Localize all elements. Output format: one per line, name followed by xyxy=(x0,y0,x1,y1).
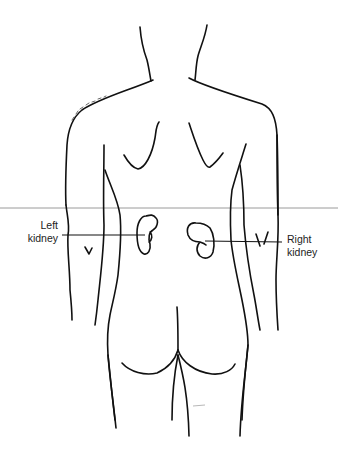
right-kidney-label-line2: kidney xyxy=(287,246,317,259)
left-shoulder-outline xyxy=(66,80,153,205)
stray-mark xyxy=(193,405,205,406)
spine-cleft-line xyxy=(177,307,178,350)
right-arm-tick-marks xyxy=(256,232,268,246)
right-outer-leg-outline xyxy=(240,345,248,436)
right-kidney-label: Right kidney xyxy=(287,233,317,258)
left-kidney-label-line1: Left xyxy=(26,219,58,232)
left-scapula-outline xyxy=(124,122,159,169)
right-kidney-leader-line xyxy=(205,241,282,242)
right-inner-leg-outline xyxy=(178,355,189,436)
left-buttock-curve xyxy=(122,350,178,374)
right-torso-side-outline xyxy=(230,144,248,420)
right-buttock-curve xyxy=(178,350,235,374)
left-inner-leg-outline xyxy=(172,355,178,420)
neck-right-outline xyxy=(195,25,207,80)
right-shoulder-outline xyxy=(189,78,278,215)
left-kidney-label-line2: kidney xyxy=(26,232,58,245)
right-kidney-label-line1: Right xyxy=(287,233,317,246)
left-arm-outer-outline xyxy=(66,205,72,320)
right-arm-outer-outline xyxy=(276,135,278,330)
left-kidney-label: Left kidney xyxy=(26,219,58,244)
left-arm-v-mark xyxy=(85,247,92,254)
neck-left-outline xyxy=(140,27,151,81)
left-outer-leg-outline xyxy=(108,355,116,428)
right-scapula-outline xyxy=(189,123,223,167)
